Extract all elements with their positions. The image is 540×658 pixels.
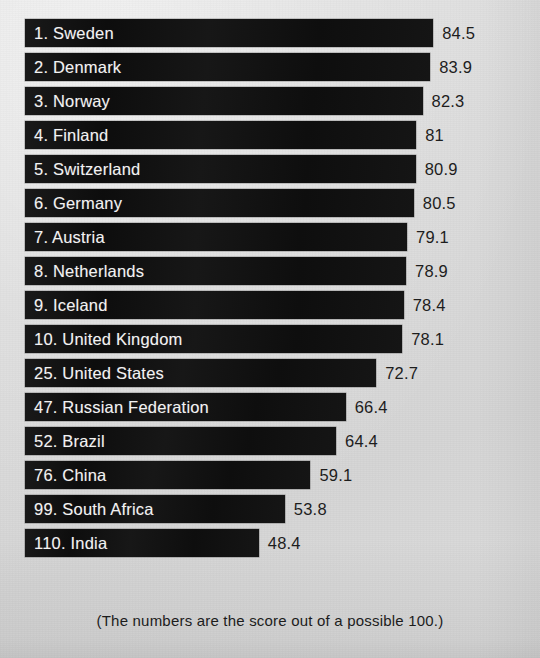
bar-category-label: 99. South Africa <box>34 495 154 523</box>
bar-category-label: 5. Switzerland <box>34 155 140 183</box>
bar-category-label: 3. Norway <box>34 87 110 115</box>
bar-value-label: 81 <box>425 121 444 149</box>
bar-category-label: 4. Finland <box>34 121 108 149</box>
bar-value-label: 78.4 <box>413 291 446 319</box>
bar-category-label: 10. United Kingdom <box>34 325 183 353</box>
bar-value-label: 82.3 <box>432 87 465 115</box>
bar-category-label: 2. Denmark <box>34 53 121 81</box>
bar-value-label: 48.4 <box>268 529 301 557</box>
bar-value-label: 83.9 <box>439 53 472 81</box>
bar-category-label: 47. Russian Federation <box>34 393 209 421</box>
bar-category-label: 9. Iceland <box>34 291 108 319</box>
bar-value-label: 59.1 <box>319 461 352 489</box>
bar-value-label: 80.9 <box>425 155 458 183</box>
bar-category-label: 110. India <box>34 529 107 557</box>
bar-category-label: 7. Austria <box>34 223 105 251</box>
bar-category-label: 76. China <box>34 461 106 489</box>
bar-category-label: 25. United States <box>34 359 164 387</box>
bar-value-label: 72.7 <box>385 359 418 387</box>
bar-value-label: 84.5 <box>442 19 475 47</box>
bar-value-label: 66.4 <box>355 393 388 421</box>
bar-value-label: 78.9 <box>415 257 448 285</box>
bar-value-label: 80.5 <box>423 189 456 217</box>
bar-category-label: 6. Germany <box>34 189 122 217</box>
bar-value-label: 64.4 <box>345 427 378 455</box>
bar-chart-plot-area: 1. Sweden84.52. Denmark83.93. Norway82.3… <box>0 0 540 600</box>
bar-category-label: 8. Netherlands <box>34 257 144 285</box>
bar-category-label: 1. Sweden <box>34 19 114 47</box>
bar-value-label: 79.1 <box>416 223 449 251</box>
bar-value-label: 78.1 <box>411 325 444 353</box>
chart-caption: (The numbers are the score out of a poss… <box>0 612 540 629</box>
bar-value-label: 53.8 <box>294 495 327 523</box>
bar-chart-page: 1. Sweden84.52. Denmark83.93. Norway82.3… <box>0 0 540 658</box>
bar-category-label: 52. Brazil <box>34 427 105 455</box>
